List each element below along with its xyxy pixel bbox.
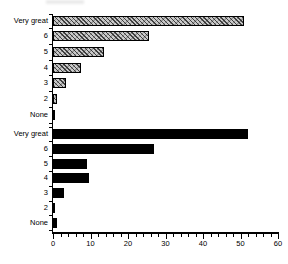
y-axis-category-tick [49,107,52,108]
category-label-upper-hatched-4: 4 [0,63,48,73]
y-axis-category-tick [49,156,52,157]
x-axis-minor-tick [173,234,174,237]
y-axis-category-tick [49,230,52,231]
x-axis-minor-tick [143,234,144,237]
bar-upper-hatched-very-great [53,16,244,26]
bar-lower-solid-very-great [53,129,248,139]
bar-upper-hatched-4 [53,63,81,73]
bar-lower-solid-none [53,218,57,228]
category-label-lower-solid-2: 2 [0,203,48,213]
bar-chart: Very great65432NoneVery great65432None01… [0,0,288,264]
category-label-lower-solid-5: 5 [0,159,48,169]
x-axis-minor-tick [121,234,122,237]
x-axis-minor-tick [218,234,219,237]
x-axis-tick-label-10: 10 [81,240,101,248]
x-axis-minor-tick [181,234,182,237]
print-artifact [46,0,84,4]
x-axis-tick-label-20: 20 [118,240,138,248]
y-axis-category-tick [49,215,52,216]
category-label-upper-hatched-2: 2 [0,94,48,104]
bar-upper-hatched-6 [53,31,149,41]
y-axis-category-tick [49,171,52,172]
x-axis-tick-label-60: 60 [268,240,288,248]
x-axis-minor-tick [263,234,264,237]
x-axis-tick-label-0: 0 [43,240,63,248]
y-axis-category-tick [49,60,52,61]
x-axis-minor-tick [233,234,234,237]
bar-upper-hatched-5 [53,47,104,57]
y-axis-category-tick [49,14,52,15]
y-axis-category-tick [49,75,52,76]
x-axis-minor-tick [76,234,77,237]
x-axis-minor-tick [196,234,197,237]
y-axis-category-tick [49,186,52,187]
x-axis-minor-tick [271,234,272,237]
y-axis-category-tick [49,141,52,142]
x-axis-minor-tick [151,234,152,237]
category-label-lower-solid-very-great: Very great [0,129,48,139]
category-label-lower-solid-3: 3 [0,188,48,198]
y-axis-category-tick [49,201,52,202]
y-axis-category-tick [49,123,52,124]
x-axis-minor-tick [158,234,159,237]
category-label-upper-hatched-5: 5 [0,47,48,57]
x-axis-minor-tick [188,234,189,237]
x-axis-minor-tick [248,234,249,237]
bar-lower-solid-2 [53,203,55,213]
bar-upper-hatched-none [53,110,55,120]
category-label-upper-hatched-very-great: Very great [0,16,48,26]
bar-upper-hatched-2 [53,94,57,104]
bar-lower-solid-6 [53,144,154,154]
x-axis-minor-tick [61,234,62,237]
category-label-lower-solid-6: 6 [0,144,48,154]
x-axis-minor-tick [226,234,227,237]
category-label-lower-solid-4: 4 [0,173,48,183]
x-axis-minor-tick [211,234,212,237]
x-axis-minor-tick [136,234,137,237]
category-label-upper-hatched-none: None [0,110,48,120]
bar-lower-solid-3 [53,188,64,198]
x-axis-minor-tick [98,234,99,237]
x-axis-minor-tick [106,234,107,237]
bar-lower-solid-5 [53,159,87,169]
y-axis-category-tick [49,91,52,92]
x-axis-tick-label-40: 40 [193,240,213,248]
category-label-lower-solid-none: None [0,218,48,228]
category-label-upper-hatched-3: 3 [0,78,48,88]
y-axis-category-tick [49,127,52,128]
category-label-upper-hatched-6: 6 [0,31,48,41]
y-axis-category-tick [49,44,52,45]
bar-lower-solid-4 [53,173,89,183]
y-axis-category-tick [49,28,52,29]
bar-upper-hatched-3 [53,78,66,88]
x-axis-minor-tick [113,234,114,237]
x-axis-minor-tick [68,234,69,237]
x-axis-tick-label-30: 30 [156,240,176,248]
x-axis-minor-tick [256,234,257,237]
x-axis-minor-tick [83,234,84,237]
x-axis-tick-label-50: 50 [231,240,251,248]
